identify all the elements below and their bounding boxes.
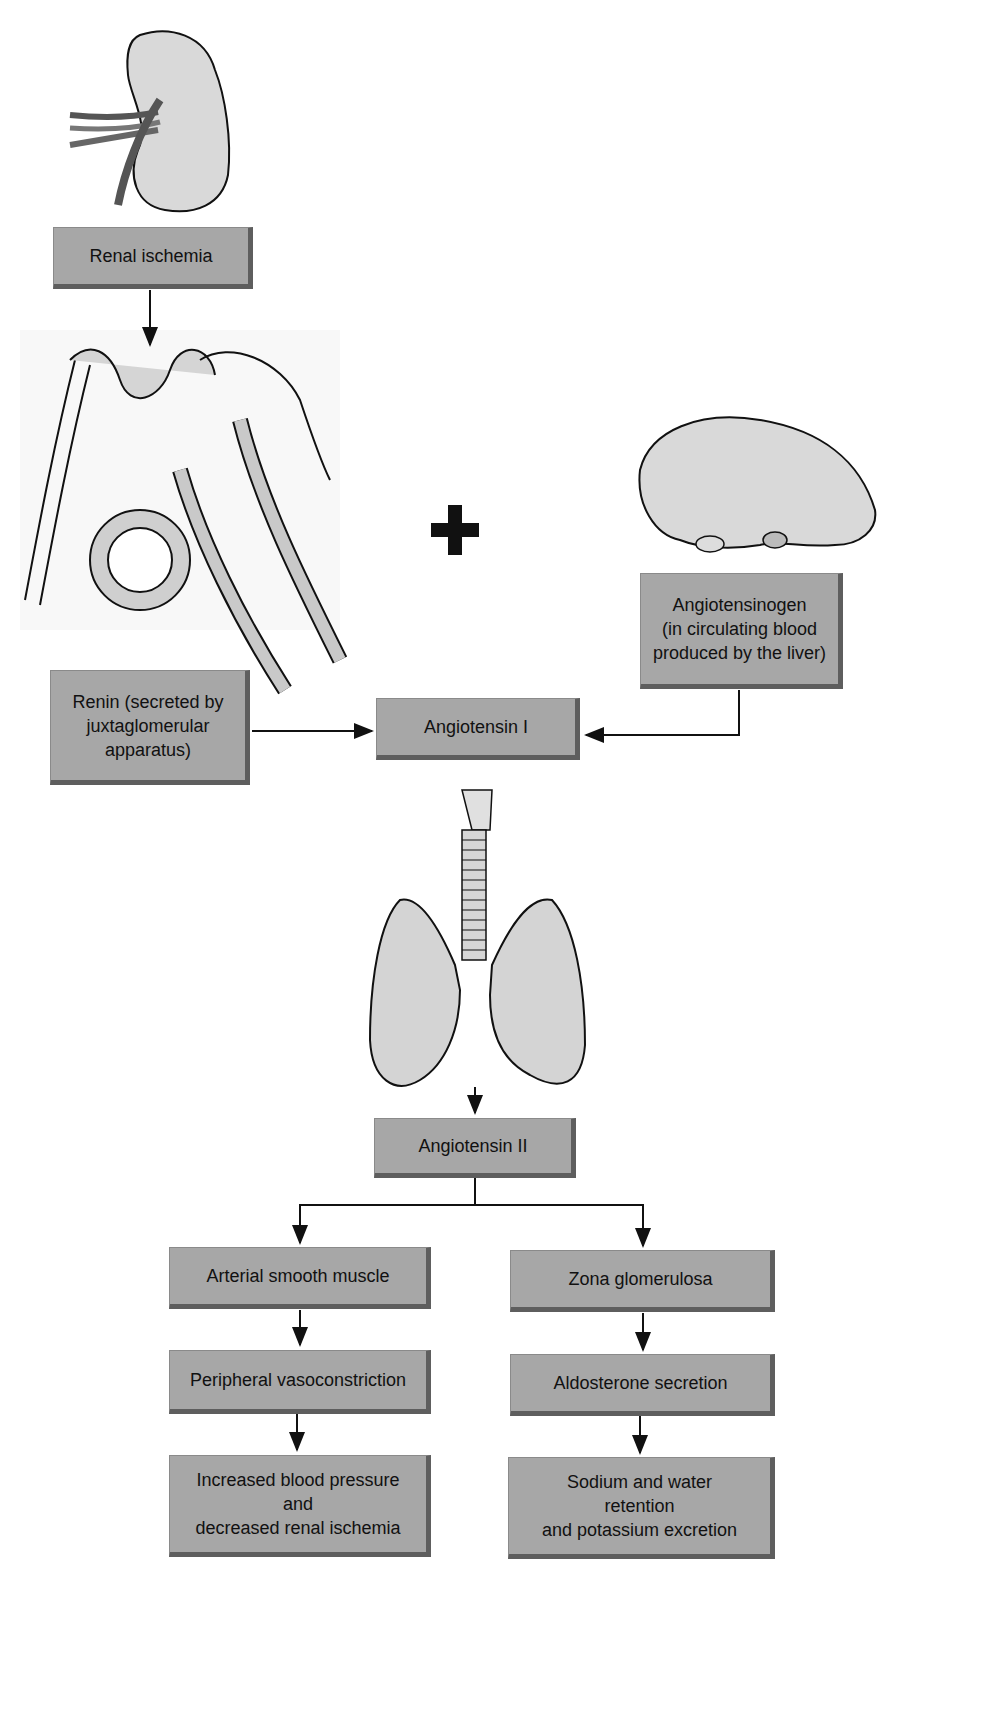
node-angiotensin-1: Angiotensin I xyxy=(376,698,580,760)
juxtaglomerular-apparatus-illustration xyxy=(20,330,340,690)
lungs-icon xyxy=(370,790,585,1086)
node-sodium-water-retention: Sodium and water retention and potassium… xyxy=(508,1457,775,1559)
node-arterial-smooth-muscle: Arterial smooth muscle xyxy=(169,1247,431,1309)
node-aldosterone-secretion: Aldosterone secretion xyxy=(510,1354,775,1416)
node-label: Increased blood pressure and decreased r… xyxy=(195,1468,400,1540)
liver-icon xyxy=(639,417,875,552)
node-label: Zona glomerulosa xyxy=(568,1267,712,1291)
node-label: Arterial smooth muscle xyxy=(206,1264,389,1288)
node-peripheral-vasoconstriction: Peripheral vasoconstriction xyxy=(169,1350,431,1414)
node-label: Angiotensin I xyxy=(424,715,528,739)
node-label: Peripheral vasoconstriction xyxy=(190,1368,406,1392)
node-label: Aldosterone secretion xyxy=(553,1371,727,1395)
node-renin: Renin (secreted by juxtaglomerular appar… xyxy=(50,670,250,785)
node-zona-glomerulosa: Zona glomerulosa xyxy=(510,1250,775,1312)
node-label: Renal ischemia xyxy=(89,244,212,268)
node-increased-blood-pressure: Increased blood pressure and decreased r… xyxy=(169,1455,431,1557)
plus-icon xyxy=(431,505,479,555)
node-renal-ischemia: Renal ischemia xyxy=(53,227,253,289)
node-label: Renin (secreted by juxtaglomerular appar… xyxy=(72,690,223,762)
kidney-icon xyxy=(70,31,229,211)
node-angiotensinogen: Angiotensinogen (in circulating blood pr… xyxy=(640,573,843,689)
node-label: Sodium and water retention and potassium… xyxy=(542,1470,737,1542)
node-angiotensin-2: Angiotensin II xyxy=(374,1118,576,1178)
node-label: Angiotensin II xyxy=(418,1134,527,1158)
node-label: Angiotensinogen (in circulating blood pr… xyxy=(653,593,826,665)
